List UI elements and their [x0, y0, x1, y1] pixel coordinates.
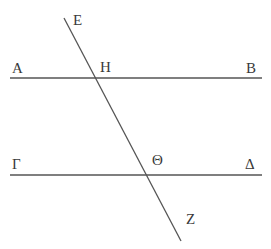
point-label-eta: H	[100, 60, 111, 75]
line-segment-transversal-ez	[64, 18, 181, 241]
point-label-theta: Θ	[152, 153, 163, 168]
point-label-zeta: Z	[186, 212, 195, 227]
geometry-canvas	[0, 0, 271, 249]
point-label-gamma: Γ	[12, 157, 21, 172]
point-label-b: B	[246, 61, 256, 76]
point-label-delta: Δ	[245, 157, 255, 172]
geometry-diagram: A B Γ Δ E Z H Θ	[0, 0, 271, 249]
point-label-epsilon: E	[73, 13, 82, 28]
point-label-a: A	[12, 61, 23, 76]
